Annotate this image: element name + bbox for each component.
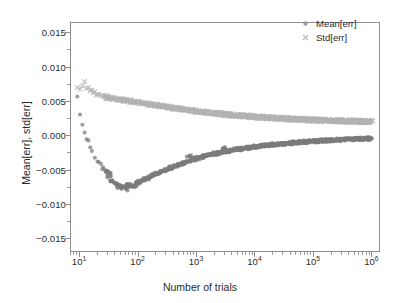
x-minor-tick-mark — [76, 252, 77, 255]
x-minor-tick-mark — [190, 252, 191, 255]
x-tick-mark — [138, 252, 139, 257]
x-minor-tick-mark — [193, 252, 194, 255]
x-axis-title: Number of trials — [0, 281, 400, 293]
data-point — [128, 185, 132, 189]
y-axis-title: Mean[err], std[err] — [20, 53, 32, 233]
x-minor-tick-mark — [107, 252, 108, 255]
data-point — [168, 164, 172, 168]
x-minor-tick-mark — [242, 252, 243, 255]
x-minor-tick-mark — [224, 252, 225, 255]
x-tick-label: 106 — [364, 256, 378, 267]
x-minor-tick-mark — [290, 252, 291, 255]
legend-entry[interactable]: Std[err] — [300, 32, 357, 43]
x-minor-tick-mark — [369, 252, 370, 255]
x-minor-tick-mark — [252, 252, 253, 255]
x-tick-label: 104 — [247, 256, 261, 267]
data-point — [90, 149, 94, 153]
data-point — [125, 188, 129, 192]
x-minor-tick-mark — [295, 252, 296, 255]
data-point — [105, 175, 109, 179]
data-point — [83, 130, 87, 134]
x-minor-tick-mark — [183, 252, 184, 255]
chart-legend: Mean[err]Std[err] — [300, 18, 357, 43]
x-minor-tick-mark — [362, 252, 363, 255]
y-tick-label: 0.015 — [42, 27, 66, 38]
x-minor-tick-mark — [300, 252, 301, 255]
data-point — [104, 170, 108, 174]
x-minor-tick-mark — [272, 252, 273, 255]
y-tick-label: −0.010 — [36, 198, 66, 209]
data-point — [109, 179, 113, 183]
x-minor-tick-mark — [73, 252, 74, 255]
x-tick-mark — [254, 252, 255, 257]
x-tick-label: 102 — [130, 256, 144, 267]
data-point — [119, 184, 123, 188]
data-point — [88, 145, 92, 149]
plot-area — [70, 22, 380, 252]
y-tick-label: −0.005 — [36, 164, 66, 175]
legend-label: Mean[err] — [316, 18, 357, 29]
x-minor-tick-mark — [155, 252, 156, 255]
x-minor-tick-mark — [135, 252, 136, 255]
data-point — [172, 164, 176, 168]
x-minor-tick-mark — [237, 252, 238, 255]
x-minor-tick-mark — [304, 252, 305, 255]
x-minor-tick-mark — [366, 252, 367, 255]
data-point — [184, 159, 188, 163]
x-minor-tick-mark — [132, 252, 133, 255]
data-point — [78, 112, 82, 116]
x-minor-tick-mark — [249, 252, 250, 255]
data-point — [221, 148, 225, 152]
x-minor-tick-mark — [165, 252, 166, 255]
legend-label: Std[err] — [316, 32, 347, 43]
x-minor-tick-mark — [173, 252, 174, 255]
x-tick-mark — [79, 252, 80, 257]
data-point — [80, 84, 85, 89]
x-tick-label: 105 — [306, 256, 320, 267]
data-point — [93, 156, 97, 160]
y-tick-label: 0.010 — [42, 61, 66, 72]
x-minor-tick-mark — [128, 252, 129, 255]
data-point — [142, 176, 146, 180]
x-minor-tick-mark — [125, 252, 126, 255]
x-marker-icon — [300, 32, 311, 43]
x-minor-tick-mark — [187, 252, 188, 255]
x-tick-label: 103 — [189, 256, 203, 267]
data-point — [86, 138, 90, 142]
x-minor-tick-mark — [70, 252, 71, 255]
x-minor-tick-mark — [214, 252, 215, 255]
x-minor-tick-mark — [354, 252, 355, 255]
data-point — [80, 123, 84, 127]
legend-entry[interactable]: Mean[err] — [300, 18, 357, 29]
scatter-chart-figure: 0.0150.0100.0050.000−0.005−0.010−0.015 1… — [0, 0, 400, 303]
data-point — [135, 181, 139, 185]
x-minor-tick-mark — [331, 252, 332, 255]
data-point — [75, 94, 79, 98]
y-tick-label: −0.015 — [36, 233, 66, 244]
y-tick-label: 0.000 — [42, 130, 66, 141]
circle-marker-icon — [300, 18, 311, 29]
x-minor-tick-mark — [358, 252, 359, 255]
series-std-err — [75, 79, 375, 125]
series-mean-err — [75, 94, 374, 192]
x-minor-tick-mark — [348, 252, 349, 255]
x-minor-tick-mark — [307, 252, 308, 255]
scatter-plot-canvas — [71, 23, 379, 251]
x-tick-mark — [313, 252, 314, 257]
x-minor-tick-mark — [282, 252, 283, 255]
data-point — [82, 79, 87, 84]
x-minor-tick-mark — [120, 252, 121, 255]
x-tick-mark — [196, 252, 197, 257]
y-tick-label: 0.005 — [42, 95, 66, 106]
x-minor-tick-mark — [310, 252, 311, 255]
x-minor-tick-mark — [231, 252, 232, 255]
data-point — [366, 137, 370, 141]
x-minor-tick-mark — [114, 252, 115, 255]
data-point — [100, 167, 104, 171]
x-minor-tick-mark — [341, 252, 342, 255]
x-minor-tick-mark — [178, 252, 179, 255]
x-tick-mark — [371, 252, 372, 257]
x-minor-tick-mark — [245, 252, 246, 255]
x-tick-label: 101 — [72, 256, 86, 267]
data-point — [185, 155, 189, 159]
